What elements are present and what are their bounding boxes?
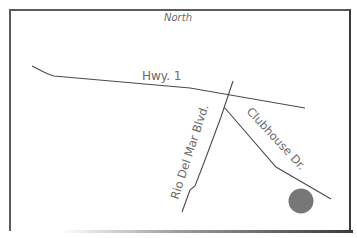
- road-label-clubhouse-dr: Clubhouse Dr.: [244, 104, 309, 172]
- road-label-rio-del-mar-blvd: Rio Del Mar Blvd.: [168, 103, 212, 201]
- destination-marker-icon[interactable]: [289, 189, 314, 214]
- road-label-hwy-1: Hwy. 1: [142, 69, 182, 83]
- compass-label-north: North: [164, 12, 192, 23]
- map-canvas: North Hwy. 1 Rio Del Mar Blvd. Clubhouse…: [0, 0, 357, 238]
- road-clubhouse-dr: [224, 107, 331, 199]
